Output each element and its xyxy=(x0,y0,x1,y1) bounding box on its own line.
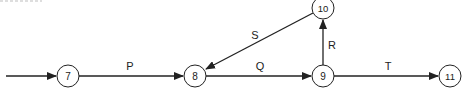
node-7: 7 xyxy=(57,65,79,87)
edge-label-t: T xyxy=(385,60,392,72)
node-label-9: 9 xyxy=(320,71,326,82)
node-label-11: 11 xyxy=(445,71,455,82)
node-9: 9 xyxy=(312,65,334,87)
node-label-10: 10 xyxy=(318,3,329,14)
edge-q: Q xyxy=(206,60,311,76)
node-label-8: 8 xyxy=(192,71,198,82)
edge-r: R xyxy=(323,20,336,65)
edge-t: T xyxy=(334,60,438,76)
node-label-7: 7 xyxy=(65,71,71,82)
node-10: 10 xyxy=(312,0,334,19)
edge-label-s: S xyxy=(251,29,258,41)
node-11: 11 xyxy=(439,65,461,87)
edge-label-r: R xyxy=(328,39,336,51)
network-diagram: P Q R S T 7 8 9 10 11 xyxy=(0,0,466,91)
node-8: 8 xyxy=(184,65,206,87)
edge-p: P xyxy=(79,60,183,76)
edge-label-p: P xyxy=(126,60,133,72)
edge-label-q: Q xyxy=(256,60,265,72)
